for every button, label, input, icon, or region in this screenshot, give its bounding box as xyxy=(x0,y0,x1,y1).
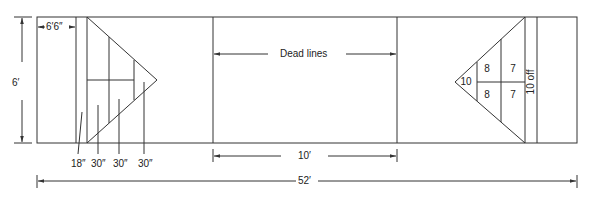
score-8-lower-label: 8 xyxy=(484,90,490,100)
score-7-lower-label: 7 xyxy=(510,90,516,100)
zone-depth-label-2: 30″ xyxy=(91,159,106,169)
zone-depth-label-1: 18″ xyxy=(71,159,86,169)
score-7-upper-label: 7 xyxy=(510,64,516,74)
court-drawing xyxy=(0,0,590,200)
ten-off-label: 10 off xyxy=(526,70,536,95)
dead-lines-label: Dead lines xyxy=(280,49,327,59)
left-triangle-upper-edge xyxy=(87,17,157,80)
total-length-label: 52′ xyxy=(298,176,311,186)
leader-18 xyxy=(78,112,82,154)
zone-depth-label-4: 30″ xyxy=(138,159,153,169)
lag-area-dimension-label: 6′6″ xyxy=(46,22,63,32)
dead-lines-spacing-label: 10′ xyxy=(298,151,311,161)
width-dimension-label: 6′ xyxy=(12,78,19,88)
score-10-label: 10 xyxy=(460,77,471,87)
zone-depth-label-3: 30″ xyxy=(113,159,128,169)
score-8-upper-label: 8 xyxy=(484,64,490,74)
